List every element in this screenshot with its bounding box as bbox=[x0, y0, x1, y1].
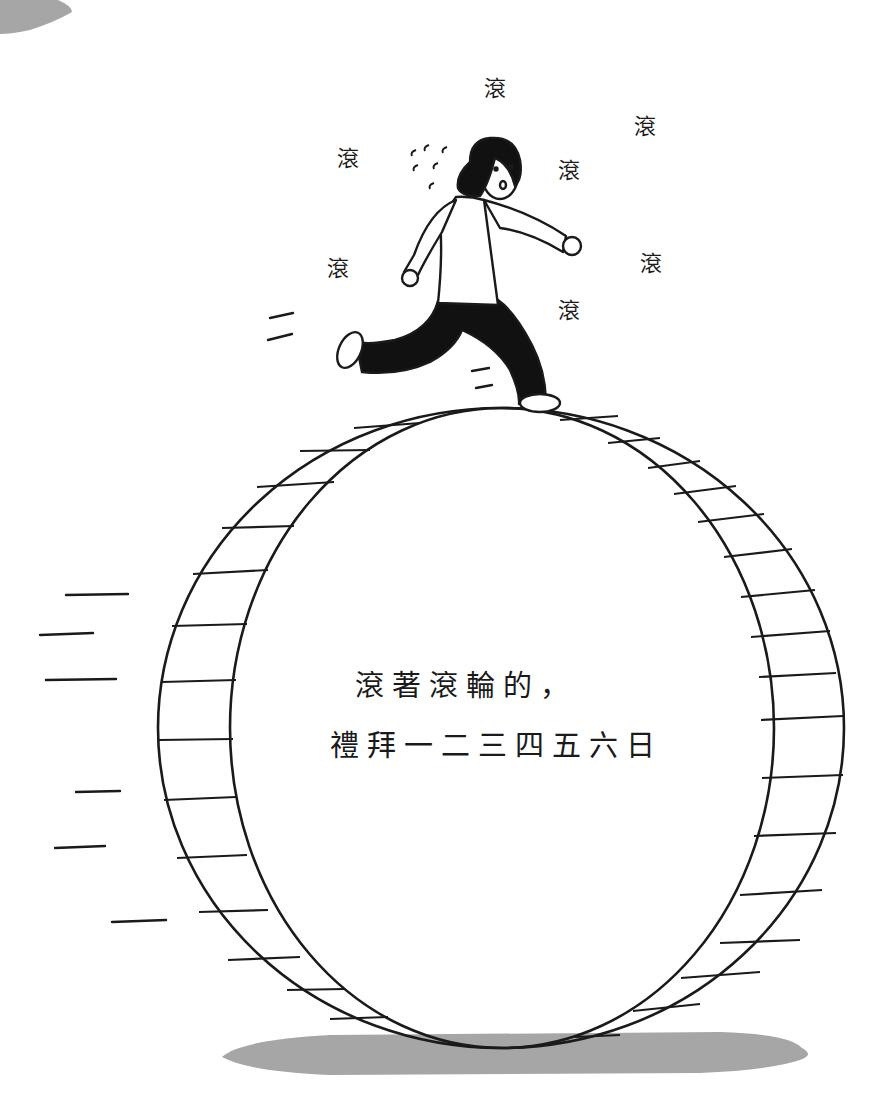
sound-effect-text: 滾 bbox=[634, 108, 656, 140]
runner-figure bbox=[332, 138, 581, 412]
sound-effect-text: 滾 bbox=[558, 292, 580, 324]
speed-lines bbox=[40, 313, 492, 922]
wheel-ground-shadow bbox=[222, 1032, 808, 1075]
sound-effect-text: 滾 bbox=[484, 70, 506, 102]
runner-eye bbox=[510, 166, 513, 169]
caption-line-1: 滾著滾輪的， bbox=[355, 662, 685, 704]
sound-effect-text: 滾 bbox=[337, 140, 359, 172]
illustration-canvas bbox=[0, 0, 892, 1108]
runner-pants bbox=[356, 300, 546, 404]
runner-front-shoe bbox=[520, 394, 560, 412]
runner-front-fist bbox=[563, 237, 581, 255]
runner-eye bbox=[495, 168, 498, 171]
runner-front-arm bbox=[484, 200, 566, 252]
sound-effect-text: 滾 bbox=[640, 245, 662, 277]
sound-effect-text: 滾 bbox=[558, 152, 580, 184]
corner-shadow-shape bbox=[0, 0, 72, 34]
panic-marks bbox=[412, 145, 448, 189]
runner-back-fist bbox=[402, 270, 418, 286]
runner-mouth bbox=[500, 181, 506, 189]
caption-line-2: 禮拜一二三四五六日 bbox=[330, 722, 730, 764]
sound-effect-text: 滾 bbox=[327, 250, 349, 282]
